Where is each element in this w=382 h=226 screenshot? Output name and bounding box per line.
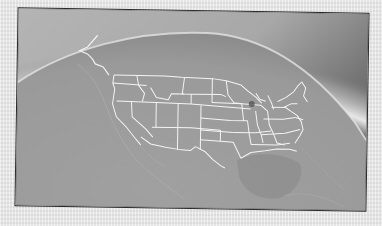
photo-frame	[14, 7, 369, 212]
globe-image	[15, 8, 368, 210]
